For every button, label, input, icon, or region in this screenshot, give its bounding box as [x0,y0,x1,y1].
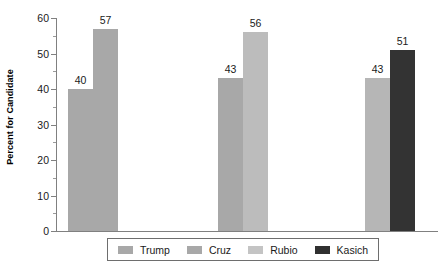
chart-legend: TrumpCruzRubioKasich [107,238,379,261]
bar-trump [68,89,93,231]
legend-swatch-icon [118,246,133,254]
legend-swatch-icon [315,246,330,254]
bar-cruz [93,29,118,231]
y-tick-major [51,160,56,161]
legend-swatch-icon [248,246,263,254]
y-tick-label: 0 [43,225,49,237]
y-tick-label: 10 [37,190,49,202]
x-axis-line [56,231,438,232]
bar-value-label: 40 [75,74,87,86]
y-axis-line [56,18,57,232]
y-tick-minor [53,213,56,214]
y-tick-label: 30 [37,119,49,131]
y-tick-minor [53,142,56,143]
bar-rubio [243,32,268,231]
y-tick-major [51,125,56,126]
y-tick-label: 60 [37,12,49,24]
bar-kasich [390,50,415,231]
bar-trump [218,78,243,231]
legend-label: Kasich [337,244,369,256]
y-tick-major [51,54,56,55]
y-axis-label: Percent for Candidate [2,2,18,232]
legend-item-trump[interactable]: Trump [118,244,170,256]
bar-chart: Percent for Candidate 0102030405060 4057… [0,0,442,276]
legend-item-rubio[interactable]: Rubio [248,244,297,256]
bar-value-label: 51 [397,35,409,47]
bar-value-label: 43 [225,63,237,75]
legend-item-cruz[interactable]: Cruz [187,244,231,256]
bar-value-label: 57 [100,14,112,26]
y-tick-minor [53,71,56,72]
bar-value-label: 43 [372,63,384,75]
legend-label: Rubio [270,244,297,256]
bar-trump [365,78,390,231]
legend-item-kasich[interactable]: Kasich [315,244,369,256]
y-tick-label: 50 [37,48,49,60]
y-tick-major [51,196,56,197]
y-tick-major [51,18,56,19]
bar-value-label: 56 [250,17,262,29]
plot-area: 0102030405060 405743564351 [56,18,438,232]
y-tick-minor [53,107,56,108]
y-tick-minor [53,36,56,37]
y-tick-major [51,231,56,232]
legend-label: Trump [140,244,170,256]
legend-label: Cruz [209,244,231,256]
y-tick-label: 40 [37,83,49,95]
y-tick-major [51,89,56,90]
legend-swatch-icon [187,246,202,254]
y-tick-label: 20 [37,154,49,166]
y-tick-minor [53,178,56,179]
